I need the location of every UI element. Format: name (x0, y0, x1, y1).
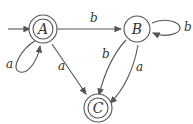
svg-text:A: A (36, 21, 48, 37)
label-b-c-b: b (102, 47, 110, 61)
transition-a-a (16, 40, 40, 72)
label-b-c-a: a (136, 60, 143, 74)
transition-b-b (152, 20, 180, 35)
automaton-diagram: A B C a b a b b a (0, 0, 193, 124)
svg-text:B: B (131, 21, 142, 37)
label-a-loop: a (6, 57, 13, 71)
state-c: C (84, 94, 112, 122)
svg-text:C: C (93, 100, 104, 116)
transition-b-c-a (110, 45, 138, 103)
label-a-b: b (90, 11, 98, 25)
state-b: B (124, 16, 150, 42)
state-a: A (29, 15, 57, 43)
label-a-c: a (58, 59, 65, 73)
label-b-loop: b (184, 20, 192, 34)
